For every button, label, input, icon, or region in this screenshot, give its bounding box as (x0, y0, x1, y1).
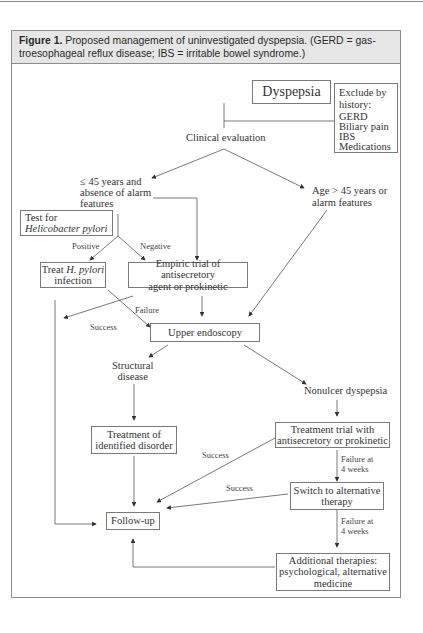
node-treat-h-pylori: Treat H. pylori infection (40, 262, 106, 288)
failure-switch-line-1: Failure at (341, 516, 373, 526)
node-test-h-pylori: Test for Helicobacter pylori (20, 210, 113, 236)
edge-label-failure-switch: Failure at 4 weeks (341, 517, 373, 536)
additional-line-1: Additional therapies: (289, 555, 377, 567)
node-additional-therapies: Additional therapies: psychological, alt… (276, 553, 390, 591)
failure-trial-line-1: Failure at (341, 454, 373, 464)
node-switch-therapy: Switch to alternative therapy (290, 482, 384, 510)
edge-label-failure-trial: Failure at 4 weeks (341, 455, 373, 474)
old-line-2: alarm features (312, 197, 372, 208)
edge-empiric-success (64, 296, 133, 318)
node-follow-up: Follow-up (106, 512, 160, 530)
test-hp-line-2: Helicobacter pylori (25, 223, 108, 235)
edge-clinical-old (224, 149, 304, 188)
edge-endoscopy-structural (149, 345, 168, 357)
node-structural-disease: Structural disease (112, 360, 153, 382)
edge-additional-followup (133, 539, 275, 567)
edge-old-endoscopy (249, 210, 327, 316)
node-dyspepsia-label: Dyspepsia (262, 86, 320, 98)
edge-label-positive: Positive (72, 242, 99, 252)
node-upper-endoscopy: Upper endoscopy (150, 323, 260, 342)
old-line-1: Age > 45 years or (312, 185, 387, 196)
treat-hp-line-1: Treat H. pylori (42, 264, 104, 276)
edge-label-success-empiric: Success (90, 323, 117, 333)
node-nonulcer-dyspepsia: Nonulcer dyspepsia (304, 385, 387, 397)
additional-line-3: medicine (314, 578, 352, 590)
upper-endoscopy-label: Upper endoscopy (168, 327, 242, 339)
failure-switch-line-2: 4 weeks (341, 526, 369, 536)
treatment-trial-line-1: Treatment trial with (291, 424, 375, 436)
treatment-trial-line-2: antisecretory or prokinetic (277, 435, 388, 447)
exclude-title-2: history: (339, 99, 371, 111)
node-age-45-or-under: ≤ 45 years and absence of alarm features (80, 176, 151, 209)
empiric-line-2: agent or prokinetic (148, 281, 227, 293)
node-exclude-by-history: Exclude by history: GERD Biliary pain IB… (334, 83, 398, 153)
treat-identified-line-2: identified disorder (95, 440, 172, 452)
edge-clinical-young (152, 149, 224, 178)
node-empiric-trial: Empiric trial of antisecretory agent or … (128, 262, 248, 288)
edge-label-success-trial: Success (202, 451, 229, 461)
switch-line-1: Switch to alternative (294, 485, 381, 497)
treat-hp-line-2: infection (54, 275, 91, 287)
node-age-over-45: Age > 45 years or alarm features (312, 185, 387, 209)
edge-label-success-switch: Success (226, 484, 253, 494)
node-dyspepsia: Dyspepsia (252, 80, 331, 104)
treat-hp-line-1a: Treat (42, 264, 66, 275)
switch-line-2: therapy (321, 496, 353, 508)
young-line-3: features (80, 198, 113, 209)
exclude-title-1: Exclude by (339, 87, 387, 99)
treat-identified-line-1: Treatment of (107, 429, 161, 441)
test-hp-line-1: Test for (25, 212, 57, 224)
node-treatment-identified: Treatment of identified disorder (91, 426, 177, 454)
node-treatment-trial: Treatment trial with antisecretory or pr… (275, 422, 390, 448)
additional-line-2: psychological, alternative (279, 566, 387, 578)
young-line-2: absence of alarm (80, 187, 151, 198)
edge-endoscopy-nonulcer (244, 345, 306, 384)
failure-trial-line-2: 4 weeks (341, 464, 369, 474)
structural-line-1: Structural (112, 360, 153, 371)
edge-label-negative: Negative (140, 242, 171, 252)
structural-line-2: disease (118, 371, 148, 382)
empiric-line-1: Empiric trial of antisecretory (129, 258, 247, 281)
edge-treathp-followup (55, 300, 96, 524)
follow-up-label: Follow-up (111, 515, 155, 527)
exclude-item: Medications (339, 142, 391, 152)
young-line-1: ≤ 45 years and (80, 176, 141, 187)
edge-label-failure-empiric: Failure (135, 306, 159, 316)
edge-switch-success (167, 494, 288, 508)
node-clinical-evaluation: Clinical evaluation (186, 132, 266, 144)
treat-hp-line-1b: H. pylori (66, 264, 104, 275)
